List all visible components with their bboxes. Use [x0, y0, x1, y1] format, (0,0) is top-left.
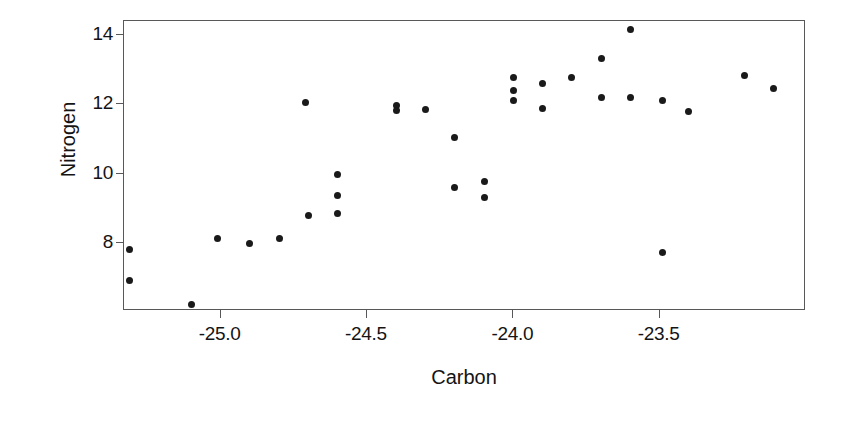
data-point [334, 171, 341, 178]
x-axis-title: Carbon [123, 366, 805, 389]
data-point [770, 85, 777, 92]
scatter-plot-figure: 8101214 -25.0-24.5-24.0-23.5 Nitrogen Ca… [0, 0, 850, 439]
x-tick-label: -23.5 [638, 323, 680, 345]
y-tick-mark [116, 34, 123, 35]
data-point [539, 80, 546, 87]
data-point [334, 192, 341, 199]
data-point [598, 94, 605, 101]
x-tick-label: -24.0 [491, 323, 533, 345]
y-tick-mark [116, 173, 123, 174]
x-tick-label: -24.5 [345, 323, 387, 345]
data-point [126, 246, 133, 253]
data-point [188, 301, 195, 308]
data-point [481, 178, 488, 185]
data-point [451, 184, 458, 191]
data-point [510, 97, 517, 104]
data-point [539, 105, 546, 112]
x-tick-mark [366, 310, 367, 318]
data-point [393, 107, 400, 114]
data-point [627, 26, 634, 33]
data-point [510, 87, 517, 94]
data-point [659, 249, 666, 256]
x-axis-tick-labels: -25.0-24.5-24.0-23.5 [123, 323, 805, 349]
data-point [659, 97, 666, 104]
x-tick-mark [220, 310, 221, 318]
data-point [305, 212, 312, 219]
x-tick-label: -25.0 [199, 323, 241, 345]
data-point [276, 235, 283, 242]
x-tick-mark [512, 310, 513, 318]
data-point [126, 277, 133, 284]
x-axis-ticks [123, 310, 805, 319]
data-point [214, 235, 221, 242]
data-point [510, 74, 517, 81]
y-tick-mark [116, 103, 123, 104]
data-point [741, 72, 748, 79]
data-point [627, 94, 634, 101]
data-point [685, 108, 692, 115]
y-tick-mark [116, 242, 123, 243]
data-point [598, 55, 605, 62]
data-point [481, 194, 488, 201]
data-point [302, 99, 309, 106]
data-point [568, 74, 575, 81]
data-points-layer [124, 21, 804, 309]
data-point [422, 106, 429, 113]
data-point [393, 102, 400, 109]
plot-area-frame [123, 20, 805, 310]
data-point [451, 134, 458, 141]
x-tick-mark [659, 310, 660, 318]
data-point [334, 210, 341, 217]
y-axis-title: Nitrogen [57, 40, 80, 240]
data-point [246, 240, 253, 247]
